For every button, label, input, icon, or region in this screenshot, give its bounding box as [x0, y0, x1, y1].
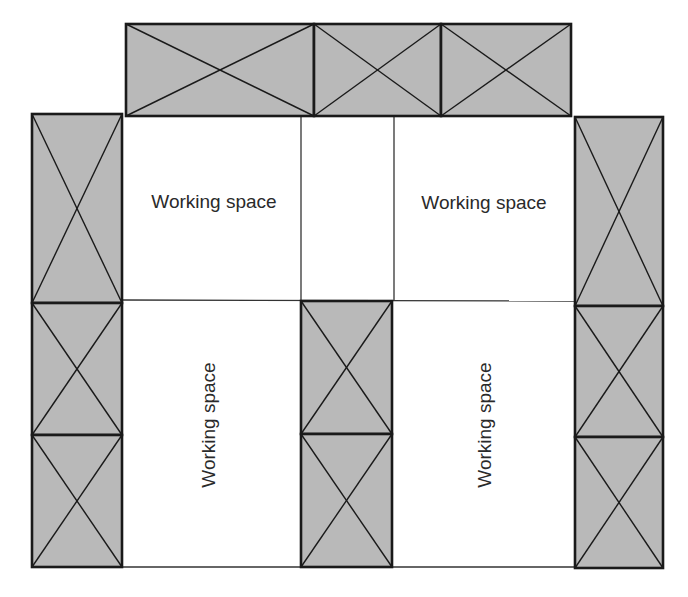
rack-left-3	[32, 435, 122, 567]
working-space-label-top-right: Working space	[421, 192, 546, 213]
rack-top-2	[314, 24, 441, 116]
warehouse-layout-diagram: Working space Working space Working spac…	[0, 0, 688, 597]
rack-top-1	[126, 24, 314, 116]
rack-mid-1	[301, 301, 392, 434]
rack-mid-2	[301, 434, 392, 567]
rack-right-1	[575, 117, 663, 306]
rack-right-3	[575, 437, 663, 568]
rack-left-1	[32, 114, 122, 303]
storage-racks	[32, 24, 663, 568]
rack-left-2	[32, 303, 122, 435]
working-space-label-bottom-left: Working space	[198, 362, 219, 487]
working-space-label-top-left: Working space	[151, 191, 276, 212]
working-space-label-bottom-right: Working space	[474, 362, 495, 487]
rack-right-2	[575, 306, 663, 437]
rack-top-3	[441, 24, 571, 116]
